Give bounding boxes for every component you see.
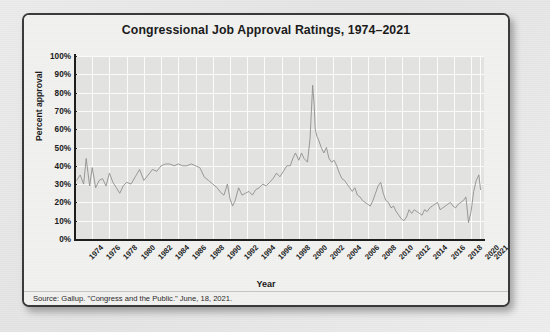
y-axis-tick-mark (74, 129, 77, 130)
y-axis-tick-label: 90% (25, 70, 71, 79)
x-axis-tick-label: 1978 (121, 243, 139, 261)
y-axis-tick-mark (74, 74, 77, 75)
x-axis-tick-label: 2014 (431, 243, 449, 261)
y-axis-tick-label: 10% (25, 216, 71, 225)
x-axis-tick-label: 1982 (156, 243, 174, 261)
y-axis-tick-mark (74, 239, 77, 240)
y-axis-tick-labels: 0%10%20%30%40%50%60%70%80%90%100% (24, 56, 71, 239)
x-axis-tick-label: 2004 (345, 243, 363, 261)
y-axis-tick-label: 80% (25, 88, 71, 97)
x-axis-tick-label: 2010 (397, 243, 415, 261)
x-axis-tick-label: 1980 (139, 243, 157, 261)
y-axis-tick-mark (74, 166, 77, 167)
y-axis-tick-label: 100% (25, 52, 71, 61)
y-axis-tick-label: 70% (25, 106, 71, 115)
approval-line-path (77, 85, 481, 222)
x-axis-tick-label: 2006 (362, 243, 380, 261)
source-note: Source: Gallup. "Congress and the Public… (33, 294, 232, 303)
x-axis-tick-label: 1990 (225, 243, 243, 261)
x-axis-tick-label: 2012 (414, 243, 432, 261)
y-axis-tick-mark (74, 111, 77, 112)
approval-line-series (75, 56, 484, 239)
screenshot-root: Congressional Job Approval Ratings, 1974… (0, 0, 550, 332)
y-axis-tick-mark (74, 202, 77, 203)
page-title: Congressional Job Approval Ratings, 1974… (24, 23, 508, 37)
y-axis-tick-mark (74, 184, 77, 185)
x-axis-tick-label: 1976 (104, 243, 122, 261)
y-axis-tick-label: 60% (25, 125, 71, 134)
x-axis-tick-label: 2016 (449, 243, 467, 261)
y-axis-tick-mark (74, 148, 77, 149)
y-axis-tick-label: 30% (25, 180, 71, 189)
x-axis-tick-label: 1994 (259, 243, 277, 261)
x-axis-tick-label: 2008 (380, 243, 398, 261)
y-axis-tick-mark (74, 56, 77, 57)
x-axis-tick-label: 1988 (207, 243, 225, 261)
plot-area (75, 56, 484, 239)
x-axis-line (74, 239, 485, 241)
x-axis-tick-label: 1998 (294, 243, 312, 261)
x-axis-title: Year (24, 279, 508, 289)
x-axis-tick-label: 2018 (466, 243, 484, 261)
x-axis-tick-label: 1992 (242, 243, 260, 261)
x-axis-tick-label: 1986 (190, 243, 208, 261)
chart-card: Congressional Job Approval Ratings, 1974… (22, 13, 510, 307)
y-axis-tick-label: 50% (25, 143, 71, 152)
x-axis-tick-label: 2002 (328, 243, 346, 261)
y-axis-tick-label: 20% (25, 198, 71, 207)
x-axis-tick-label: 1974 (87, 243, 105, 261)
y-axis-tick-mark (74, 221, 77, 222)
y-axis-tick-mark (74, 93, 77, 94)
x-axis-tick-label: 1984 (173, 243, 191, 261)
x-axis-tick-label: 1996 (276, 243, 294, 261)
x-axis-tick-label: 2000 (311, 243, 329, 261)
y-axis-tick-label: 40% (25, 161, 71, 170)
x-axis-tick-labels: 1974197619781980198219841986198819901992… (24, 243, 508, 283)
source-divider (24, 291, 508, 292)
